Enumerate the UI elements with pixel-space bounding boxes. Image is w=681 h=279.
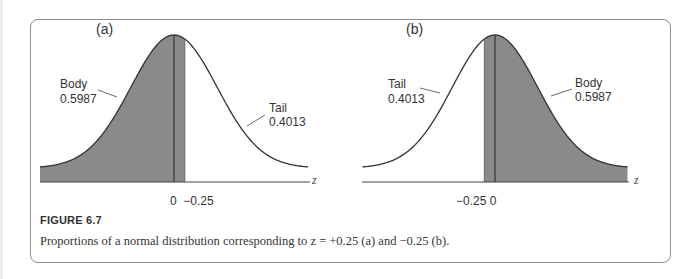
panel-b-body-leader [551,89,572,96]
panel-b-label: (b) [406,21,423,37]
panel-a-body-leader [98,90,117,97]
panel-a-label: (a) [96,21,113,37]
panel-b-tail-label: Tail [388,77,406,91]
panel-a-body-value: 0.5987 [60,92,97,106]
shaded-region [484,35,627,182]
panel-a-body-label: Body [60,77,87,91]
panel-a-axis-label: z [311,173,317,187]
figure-caption: Proportions of a normal distribution cor… [40,234,449,249]
panel-a-tail-value: 0.4013 [269,115,306,129]
panel-b-axis-label: z [633,173,639,187]
panel-a-tail-leader [247,115,265,126]
panel-b [362,35,629,182]
panel-b-body-value: 0.5987 [575,90,612,104]
panel-b-tick-labels: −0.25 0 [456,194,497,208]
panel-a-tick-labels: 0 −0.25 [170,194,214,208]
panel-b-tail-value: 0.4013 [388,92,425,106]
panel-a-tail-label: Tail [269,101,287,115]
shaded-region [40,35,185,182]
panel-b-body-label: Body [575,76,602,90]
figure-title: FIGURE 6.7 [40,214,102,226]
